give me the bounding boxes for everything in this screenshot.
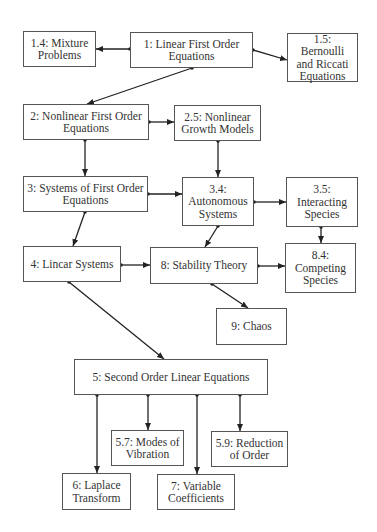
node-3-5: 3.5: Interacting Species bbox=[286, 177, 358, 227]
node-3: 3: Systems of First Order Equations bbox=[23, 176, 148, 212]
node-6: 6: Laplace Transform bbox=[62, 473, 131, 510]
node-9: 9: Chaos bbox=[216, 308, 287, 345]
node-5-7: 5.7: Modes of Vibration bbox=[111, 430, 184, 466]
edge-n8-to-n9 bbox=[212, 284, 248, 308]
node-2: 2: Nonlinear First Order Equations bbox=[23, 104, 149, 140]
node-8: 8: Stability Theory bbox=[150, 247, 258, 284]
edge-n1-to-n1_5 bbox=[253, 50, 287, 60]
node-3-4: 3.4: Autonomous Systems bbox=[182, 177, 254, 226]
edge-n1-to-n2 bbox=[87, 68, 192, 104]
node-1: 1: Linear First Order Equations bbox=[130, 32, 253, 68]
node-1-5: 1.5: Bernoulli and Riccati Equations bbox=[287, 33, 358, 82]
node-2-5: 2.5: Nonlinear Growth Models bbox=[174, 105, 261, 141]
node-5-9: 5.9: Reduction of Order bbox=[211, 431, 288, 467]
node-8-4: 8.4: Competing Species bbox=[285, 243, 356, 293]
edge-n3-to-n4 bbox=[73, 212, 85, 246]
node-5: 5: Second Order Linear Equations bbox=[74, 359, 268, 395]
edge-n3_4-to-n8 bbox=[205, 226, 218, 247]
node-7: 7: Variable Coefficients bbox=[157, 474, 235, 510]
edge-n4-to-n5 bbox=[69, 282, 164, 359]
node-4: 4: Lincar Systems bbox=[23, 246, 121, 282]
node-1-4: 1.4: Mixture Problems bbox=[23, 31, 96, 67]
